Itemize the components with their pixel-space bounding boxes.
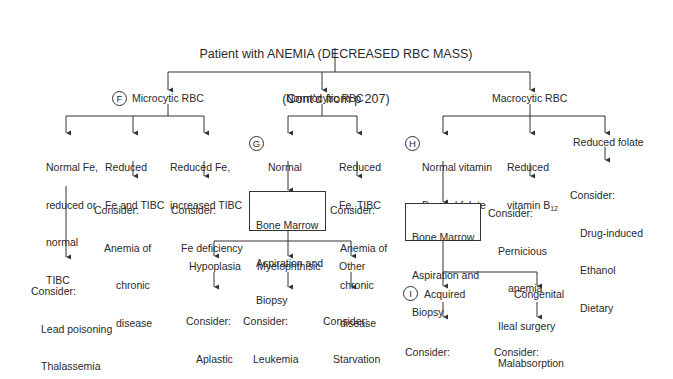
- node-hypoplasia: Hypoplasia: [189, 260, 241, 273]
- consider-fe-deficiency: Consider: Fe deficiency: [171, 179, 243, 267]
- consider-dyserythropoietic: Consider: Dyserythropoietic anemia: [494, 321, 585, 379]
- consider-folate-causes: Consider: Drug-induced Ethanol Dietary: [570, 164, 643, 327]
- marker-h-icon: H: [405, 136, 420, 151]
- marker-i-icon: I: [403, 286, 418, 301]
- node-reduced-folate: Reduced folate: [573, 136, 644, 149]
- node-microcytic: Microcytic RBC: [132, 92, 204, 105]
- consider-myelodysplasia: Consider: Myelodysplasia: [405, 321, 487, 379]
- consider-aplastic-anemia: Consider: Aplastic anemia: [186, 290, 233, 379]
- marker-f-icon: F: [112, 91, 127, 106]
- bone-marrow-box-normocytic: Bone Marrow Aspiration and Biopsy: [249, 191, 326, 231]
- node-congenital: Congenital: [514, 288, 564, 301]
- node-normocytic: Normocytic RBC: [286, 92, 364, 105]
- node-other: Other: [339, 260, 365, 273]
- title-line-1: Patient with ANEMIA (DECREASED RBC MASS): [186, 47, 486, 62]
- consider-myelophthisic: Consider: Leukemia Solid tumors Myelodys…: [243, 290, 335, 379]
- marker-g-icon: G: [249, 136, 264, 151]
- consider-starvation-uremia: Consider: Starvation Uremia: [323, 290, 380, 379]
- node-myelophthisic: Myelophthisic: [257, 260, 321, 273]
- consider-anemia-chronic-disease-micro: Consider: Anemia of chronic disease: [94, 179, 152, 342]
- bone-marrow-box-macrocytic: Bone Marrow Aspiration and Biopsy: [405, 203, 481, 241]
- page-title: Patient with ANEMIA (DECREASED RBC MASS)…: [186, 17, 486, 122]
- node-acquired: Acquired: [424, 288, 465, 301]
- node-macrocytic: Macrocytic RBC: [492, 92, 567, 105]
